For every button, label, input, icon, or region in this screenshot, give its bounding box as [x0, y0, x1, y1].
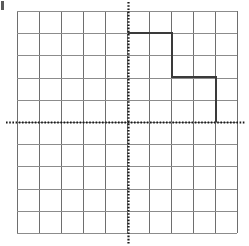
- coordinate-grid-figure: [0, 0, 249, 246]
- axes: [6, 2, 245, 244]
- plot-canvas: [0, 0, 249, 246]
